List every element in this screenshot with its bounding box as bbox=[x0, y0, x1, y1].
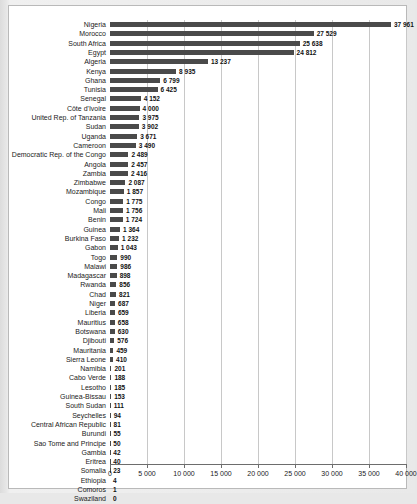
bar-row: Congo1 775 bbox=[110, 197, 406, 206]
category-label: Cabo Verde bbox=[69, 373, 106, 382]
category-label: Burkina Faso bbox=[65, 234, 106, 243]
bar bbox=[110, 292, 116, 297]
bar-value-label: 986 bbox=[120, 262, 131, 271]
category-label: Gabon bbox=[85, 243, 106, 252]
bar-row: Kenya8 935 bbox=[110, 67, 406, 76]
bar bbox=[110, 422, 111, 427]
category-label: Niger bbox=[89, 299, 106, 308]
category-label: Central African Republic bbox=[31, 420, 106, 429]
bar bbox=[110, 106, 140, 111]
bar-value-label: 4 000 bbox=[143, 104, 159, 113]
bar-row: Mauritania459 bbox=[110, 346, 406, 355]
category-label: Burundi bbox=[82, 429, 106, 438]
bar bbox=[110, 375, 111, 380]
bar-value-label: 153 bbox=[114, 392, 125, 401]
category-label: Democratic Rep. of the Congo bbox=[12, 150, 106, 159]
bar-row: Guinea-Bissau153 bbox=[110, 392, 406, 401]
bar bbox=[110, 22, 391, 27]
category-label: Mauritius bbox=[78, 318, 106, 327]
bar-value-label: 687 bbox=[118, 299, 129, 308]
bar-row: Burkina Faso1 232 bbox=[110, 234, 406, 243]
bar-value-label: 94 bbox=[114, 411, 121, 420]
bar bbox=[110, 96, 141, 101]
bar-value-label: 576 bbox=[117, 336, 128, 345]
bar bbox=[110, 189, 124, 194]
x-tick-label: 30 000 bbox=[321, 470, 342, 477]
x-tick-label: 25 000 bbox=[284, 470, 305, 477]
bar bbox=[110, 227, 120, 232]
bar-value-label: 24 812 bbox=[297, 48, 317, 57]
bar-value-label: 1 724 bbox=[126, 215, 142, 224]
category-label: Sudan bbox=[86, 122, 106, 131]
bar-row: Chad821 bbox=[110, 290, 406, 299]
x-tick-label: 20 000 bbox=[247, 470, 268, 477]
bar-row: Madagascar898 bbox=[110, 271, 406, 280]
category-label: Namibia bbox=[80, 364, 106, 373]
bar-row: Togo990 bbox=[110, 253, 406, 262]
bar-row: Niger687 bbox=[110, 299, 406, 308]
bar-value-label: 55 bbox=[113, 429, 120, 438]
category-label: Botswana bbox=[75, 327, 106, 336]
bar-value-label: 4 152 bbox=[144, 94, 160, 103]
bar bbox=[110, 255, 117, 260]
bar bbox=[110, 320, 115, 325]
bar-row: Botswana630 bbox=[110, 327, 406, 336]
category-label: Madagascar bbox=[67, 271, 106, 280]
category-label: Somalia bbox=[81, 466, 106, 475]
bar-row: Sudan3 902 bbox=[110, 122, 406, 131]
bar-row: Central African Republic81 bbox=[110, 420, 406, 429]
bar-value-label: 25 638 bbox=[303, 39, 323, 48]
bar bbox=[110, 31, 314, 36]
chart-panel: Nigeria37 961Morocco27 529South Africa25… bbox=[8, 5, 407, 489]
bar-row: Guinea1 364 bbox=[110, 225, 406, 234]
bar-value-label: 111 bbox=[114, 401, 124, 410]
bar-value-label: 2 087 bbox=[128, 178, 144, 187]
category-label: Liberia bbox=[85, 308, 106, 317]
category-label: Cameroon bbox=[73, 141, 106, 150]
bar bbox=[110, 134, 137, 139]
plot-area: Nigeria37 961Morocco27 529South Africa25… bbox=[110, 20, 406, 464]
bar-value-label: 1 232 bbox=[122, 234, 138, 243]
bar-row: Uganda3 671 bbox=[110, 132, 406, 141]
bar bbox=[110, 180, 125, 185]
category-label: Mauritania bbox=[73, 346, 106, 355]
bar bbox=[110, 273, 117, 278]
bar-value-label: 821 bbox=[119, 290, 130, 299]
category-label: Senegal bbox=[80, 94, 106, 103]
x-tick-label: 5 000 bbox=[138, 470, 156, 477]
bar bbox=[110, 301, 115, 306]
bar-row: Egypt24 812 bbox=[110, 48, 406, 57]
bar-row: Angola2 457 bbox=[110, 160, 406, 169]
category-label: Guinea bbox=[83, 225, 106, 234]
bar-value-label: 1 364 bbox=[123, 225, 139, 234]
bar bbox=[110, 171, 128, 176]
bar-row: Côte d'Ivoire4 000 bbox=[110, 104, 406, 113]
bar-value-label: 6 799 bbox=[163, 76, 179, 85]
x-tick bbox=[406, 464, 407, 468]
bar-row: Cameroon3 490 bbox=[110, 141, 406, 150]
bar-row: United Rep. of Tanzania3 975 bbox=[110, 113, 406, 122]
bar-row: Namibia201 bbox=[110, 364, 406, 373]
bar-value-label: 4 bbox=[113, 476, 117, 485]
category-label: South Sudan bbox=[66, 401, 106, 410]
bar-row: Swaziland0 bbox=[110, 494, 406, 503]
bar bbox=[110, 366, 111, 371]
bar-value-label: 27 529 bbox=[317, 29, 337, 38]
bar bbox=[110, 143, 136, 148]
bar bbox=[110, 69, 176, 74]
bar-value-label: 3 671 bbox=[140, 132, 156, 141]
bar-value-label: 630 bbox=[118, 327, 129, 336]
bar-row: Gambia42 bbox=[110, 448, 406, 457]
bar bbox=[110, 78, 160, 83]
bar-row: Senegal4 152 bbox=[110, 94, 406, 103]
bar-row: South Sudan111 bbox=[110, 401, 406, 410]
bar bbox=[110, 115, 139, 120]
bar-row: Algeria13 237 bbox=[110, 57, 406, 66]
category-label: Mozambique bbox=[66, 187, 106, 196]
category-label: Guinea-Bissau bbox=[60, 392, 106, 401]
bar-value-label: 201 bbox=[114, 364, 125, 373]
bar bbox=[110, 217, 123, 222]
category-label: United Rep. of Tanzania bbox=[31, 113, 106, 122]
category-label: Malawi bbox=[84, 262, 106, 271]
bar-value-label: 459 bbox=[116, 346, 127, 355]
